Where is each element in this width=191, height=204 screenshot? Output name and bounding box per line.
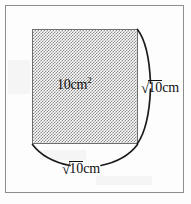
radical-expression: √10 xyxy=(62,161,83,177)
radicand: 10 xyxy=(148,80,162,95)
area-exponent: 2 xyxy=(87,75,91,85)
right-side-label: √10cm xyxy=(141,80,179,96)
area-value: 10cm xyxy=(57,77,87,92)
right-brace xyxy=(138,30,151,84)
bottom-brace xyxy=(101,145,138,166)
bottom-side-label: √10cm xyxy=(62,161,100,177)
figure-canvas: 10cm2 √10cm √10cm xyxy=(0,0,191,204)
unit-label: cm xyxy=(83,161,100,176)
radicand: 10 xyxy=(69,161,83,176)
area-label: 10cm2 xyxy=(57,78,92,92)
radical-expression: √10 xyxy=(141,80,162,96)
unit-label: cm xyxy=(162,80,179,95)
right-brace xyxy=(138,89,151,144)
